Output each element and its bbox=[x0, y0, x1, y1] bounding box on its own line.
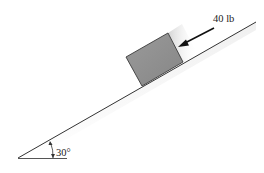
force-label: 40 lb bbox=[213, 13, 234, 24]
incline-surface bbox=[18, 22, 256, 158]
angle-label: 30° bbox=[56, 147, 71, 158]
incline-diagram: 40 lb 30° bbox=[0, 0, 264, 173]
